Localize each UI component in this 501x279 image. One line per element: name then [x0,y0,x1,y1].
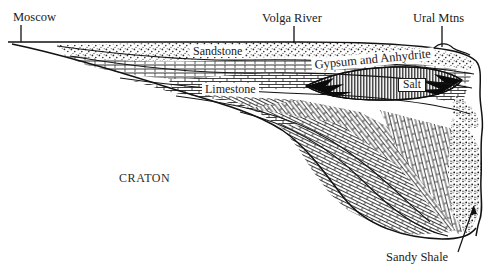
label-ural-mtns: Ural Mtns [413,12,464,25]
label-volga-river: Volga River [262,12,322,25]
cross-section-drawing [0,0,501,279]
label-limestone: Limestone [202,83,259,95]
label-sandy-shale: Sandy Shale [386,251,448,264]
label-sandstone: Sandstone [190,45,245,57]
label-salt: Salt [398,78,426,92]
label-craton: CRATON [119,172,170,184]
label-moscow: Moscow [13,11,56,24]
cross-section-figure: Moscow Volga River Ural Mtns Sandstone L… [0,0,501,279]
